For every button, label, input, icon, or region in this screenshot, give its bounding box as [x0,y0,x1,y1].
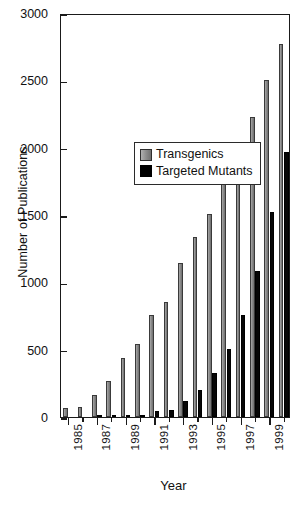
x-axis-tick-label: 1989 [129,424,141,450]
bar-transgenics-1990 [135,344,140,417]
y-axis-tick-label: 0 [41,411,48,425]
x-axis-title: Year [0,478,302,493]
bar-transgenics-1997 [236,152,241,417]
x-axis-tick-label: 1997 [244,424,256,450]
bar-transgenics-1994 [193,237,198,417]
x-axis-tick [169,417,170,422]
legend-item-targeted-mutants: Targeted Mutants [140,164,253,180]
x-axis-tick-labels: 19851987198919911993199519971999 [60,424,290,472]
black-square-icon [140,165,152,177]
y-axis-tick-label: 2500 [20,74,48,88]
bar-transgenics-1985 [63,408,68,417]
y-axis-tick-label: 2000 [20,142,48,156]
legend-item-transgenics: Transgenics [140,147,253,163]
bar-transgenics-1986 [78,407,83,417]
bar-transgenics-1999 [264,80,269,417]
y-axis-tick-label: 1500 [20,209,48,223]
gray-square-icon [140,149,152,161]
x-axis-tick [82,417,83,422]
x-axis-tick-label: 1995 [215,424,227,450]
bar-transgenics-1987 [92,395,97,417]
x-axis-tick [140,417,141,422]
bar-transgenics-2000 [279,44,284,417]
bar-targeted-mutants-1995 [212,373,217,417]
bar-transgenics-1992 [164,302,169,417]
x-axis-tick [197,417,198,422]
x-axis-tick-label: 1991 [158,424,170,450]
bar-targeted-mutants-1997 [241,315,246,417]
x-axis-tick [226,417,227,422]
bar-targeted-mutants-1989 [126,415,131,417]
bar-targeted-mutants-1996 [227,349,232,417]
bar-targeted-mutants-1987 [97,415,102,417]
x-axis-tick-label: 1985 [72,424,84,450]
bar-targeted-mutants-2000 [284,152,289,417]
x-axis-tick-label: 1999 [273,424,285,450]
bar-targeted-mutants-1990 [140,415,145,417]
x-axis-tick-label: 1993 [187,424,199,450]
bar-targeted-mutants-1991 [155,411,160,417]
chart-legend: Transgenics Targeted Mutants [134,142,261,185]
bar-targeted-mutants-1994 [198,390,203,417]
bar-transgenics-1989 [121,358,126,417]
bar-transgenics-1996 [221,184,226,417]
bar-targeted-mutants-1988 [112,415,117,417]
bar-targeted-mutants-1992 [169,410,174,417]
x-axis-tick-label: 1987 [100,424,112,450]
x-axis-tick [284,417,285,422]
bar-transgenics-1991 [149,315,154,417]
y-axis-tick-label: 1000 [20,276,48,290]
y-axis-tick-labels: 050010001500200025003000 [0,0,54,506]
legend-label-transgenics: Transgenics [156,147,224,163]
bar-transgenics-1995 [207,214,212,417]
bar-chart-figure: Number of Publications 05001000150020002… [0,0,302,506]
x-axis-tick [111,417,112,422]
y-axis-tick [61,418,67,419]
bar-transgenics-1993 [178,263,183,417]
y-axis-tick-label: 3000 [20,7,48,21]
y-axis-tick-label: 500 [27,344,48,358]
plot-area: Transgenics Targeted Mutants [60,14,290,418]
legend-label-targeted-mutants: Targeted Mutants [156,164,253,180]
bar-targeted-mutants-1999 [270,212,275,417]
bar-transgenics-1988 [106,381,111,417]
bar-targeted-mutants-1993 [183,401,188,417]
x-axis-tick [255,417,256,422]
bar-targeted-mutants-1998 [255,271,260,417]
